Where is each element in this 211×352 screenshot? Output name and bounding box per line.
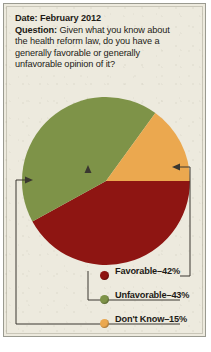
legend-item-unfavorable[interactable]: Unfavorable–43% [100,290,200,314]
legend-dot-dontknow [100,319,109,328]
question-text-1: Given what you know about [57,25,170,35]
legend: Favorable–42% Unfavorable–43% Don't Know… [100,266,200,338]
legend-label-dontknow: Don't Know–15% [115,314,187,324]
survey-card: Date: February 2012 Question: Given what… [3,3,206,337]
legend-item-favorable[interactable]: Favorable–42% [100,266,200,290]
question-line-4: unfavorable opinion of it? [15,59,199,71]
legend-label-favorable: Favorable–42% [115,266,180,276]
legend-dot-unfavorable [100,295,109,304]
legend-label-unfavorable: Unfavorable–43% [115,290,189,300]
date-line: Date: February 2012 [15,13,199,25]
question-label: Question: [15,25,57,35]
legend-item-dontknow[interactable]: Don't Know–15% [100,314,200,338]
header-text-block: Date: February 2012 Question: Given what… [15,13,199,71]
pie-chart [21,96,191,266]
question-line-2: the health reform law, do you have a [15,36,199,48]
question-line-1: Question: Given what you know about [15,25,199,37]
legend-dot-favorable [100,271,109,280]
question-line-3: generally favorable or generally [15,48,199,60]
pie-svg [21,96,191,266]
